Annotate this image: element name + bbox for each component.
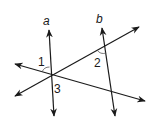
- angle-1-label: 1: [38, 55, 45, 69]
- line-a: [49, 30, 54, 116]
- line-b-label: b: [96, 12, 103, 26]
- diagram-svg: a b 1 2 3: [0, 0, 152, 123]
- angle-2-arc: [97, 50, 106, 53]
- transversal-rising: [15, 27, 139, 96]
- angle-3-label: 3: [54, 82, 61, 96]
- line-a-label: a: [43, 14, 50, 28]
- angle-2-label: 2: [94, 56, 101, 70]
- angle-diagram: a b 1 2 3: [0, 0, 152, 123]
- transversal-falling: [15, 64, 145, 101]
